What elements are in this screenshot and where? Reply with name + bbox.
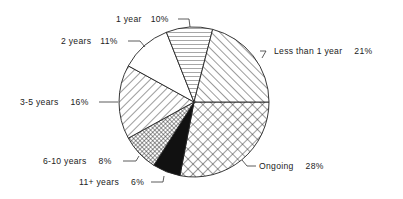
pie-chart: 1 year10% 2 years11% Less than 1 year21%… [0,0,403,199]
label-6-10-years: 6-10 years8% [43,156,112,166]
pie-slices [119,27,269,177]
label-1-year: 1 year10% [116,14,169,24]
label-11-plus-years: 11+ years6% [79,177,144,187]
label-less-than-1-year: Less than 1 year21% [274,46,373,56]
label-ongoing: Ongoing28% [259,161,324,171]
label-2-years: 2 years11% [61,36,118,46]
label-3-5-years: 3-5 years16% [20,97,89,107]
